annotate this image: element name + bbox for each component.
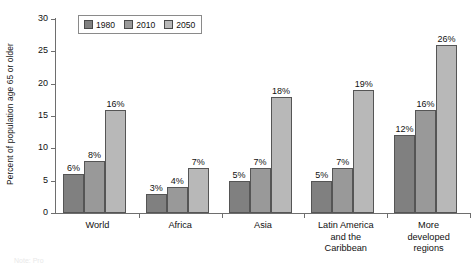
legend-swatch-icon xyxy=(164,20,173,29)
bar[interactable]: 3% xyxy=(146,194,167,213)
bar-value-label: 4% xyxy=(171,176,184,186)
footnote: Note: Pro xyxy=(14,257,44,264)
y-tick-label: 25 xyxy=(38,45,48,55)
legend-item-2010[interactable]: 2010 xyxy=(124,20,155,30)
x-axis-separator-tick xyxy=(470,213,471,218)
bar[interactable]: 12% xyxy=(394,135,415,213)
bar-value-label: 5% xyxy=(232,170,245,180)
y-tick-label: 5 xyxy=(43,175,48,185)
bar-value-label: 16% xyxy=(106,99,124,109)
x-axis-category-label: Moredevelopedregions xyxy=(377,220,476,255)
bar-value-label: 26% xyxy=(438,34,456,44)
bar-group: 12%16%26% xyxy=(394,19,457,213)
y-tick-mark xyxy=(51,51,56,52)
y-tick-mark xyxy=(51,116,56,117)
x-axis-separator-tick xyxy=(387,213,388,218)
y-tick-mark xyxy=(51,19,56,20)
bar[interactable]: 7% xyxy=(188,168,209,213)
bar-group: 5%7%18% xyxy=(229,19,292,213)
bar-value-label: 7% xyxy=(192,157,205,167)
bar-value-label: 19% xyxy=(355,79,373,89)
legend-swatch-icon xyxy=(124,20,133,29)
bar-value-label: 6% xyxy=(67,163,80,173)
plot-area: 0510152025306%8%16%3%4%7%5%7%18%5%7%19%1… xyxy=(56,19,470,213)
y-tick-mark xyxy=(51,148,56,149)
bar[interactable]: 7% xyxy=(332,168,353,213)
category-label-line: regions xyxy=(377,243,476,255)
bar[interactable]: 18% xyxy=(271,97,292,213)
bar-value-label: 16% xyxy=(417,99,435,109)
bar[interactable]: 26% xyxy=(436,45,457,213)
y-tick-mark xyxy=(51,213,56,214)
bar-value-label: 7% xyxy=(336,157,349,167)
bar[interactable]: 16% xyxy=(105,110,126,213)
bar[interactable]: 7% xyxy=(250,168,271,213)
bar-group: 6%8%16% xyxy=(63,19,126,213)
bar[interactable]: 5% xyxy=(311,181,332,213)
legend-label: 2050 xyxy=(176,20,195,30)
legend-label: 2010 xyxy=(136,20,155,30)
bar-value-label: 3% xyxy=(150,183,163,193)
legend-swatch-icon xyxy=(84,20,93,29)
y-tick-label: 10 xyxy=(38,142,48,152)
x-axis-separator-tick xyxy=(139,213,140,218)
legend-label: 1980 xyxy=(96,20,115,30)
bar[interactable]: 4% xyxy=(167,187,188,213)
category-label-line: developed xyxy=(377,232,476,244)
x-axis-line xyxy=(55,213,471,214)
bar-group: 3%4%7% xyxy=(146,19,209,213)
bar[interactable]: 8% xyxy=(84,161,105,213)
legend-item-2050[interactable]: 2050 xyxy=(164,20,195,30)
bar-group: 5%7%19% xyxy=(311,19,374,213)
x-axis-separator-tick xyxy=(222,213,223,218)
bar-value-label: 7% xyxy=(253,157,266,167)
chart-legend: 198020102050 xyxy=(78,15,202,34)
bar[interactable]: 16% xyxy=(415,110,436,213)
bar-value-label: 8% xyxy=(88,150,101,160)
y-tick-mark xyxy=(51,181,56,182)
bar-chart: Percent of population age 65 or older 05… xyxy=(0,0,476,270)
legend-item-1980[interactable]: 1980 xyxy=(84,20,115,30)
bar-value-label: 18% xyxy=(272,86,290,96)
bar-value-label: 12% xyxy=(396,124,414,134)
y-tick-mark xyxy=(51,84,56,85)
y-tick-label: 30 xyxy=(38,13,48,23)
bar[interactable]: 5% xyxy=(229,181,250,213)
y-tick-label: 15 xyxy=(38,110,48,120)
bar[interactable]: 19% xyxy=(353,90,374,213)
bar[interactable]: 6% xyxy=(63,174,84,213)
bar-value-label: 5% xyxy=(315,170,328,180)
y-tick-label: 20 xyxy=(38,78,48,88)
category-label-line: More xyxy=(377,220,476,232)
x-axis-separator-tick xyxy=(304,213,305,218)
y-tick-label: 0 xyxy=(43,207,48,217)
y-axis-title: Percent of population age 65 or older xyxy=(2,6,18,222)
